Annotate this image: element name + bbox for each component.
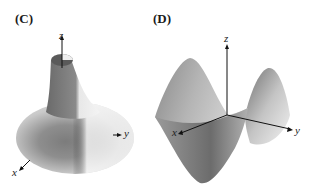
z-axis-label-c: z <box>59 29 63 41</box>
panel-c: (C) z y x <box>0 0 150 195</box>
panel-label-c: (C) <box>15 11 33 27</box>
x-axis-label-d: x <box>172 126 177 138</box>
panel-label-d: (D) <box>153 11 171 27</box>
saddle-surface-plot <box>150 0 309 195</box>
saddle-right-lobe <box>245 68 290 145</box>
y-axis-label-c: y <box>124 127 129 139</box>
y-axis-label-d: y <box>295 124 300 136</box>
x-axis-label-c: x <box>12 166 17 178</box>
funnel-neck <box>46 60 100 119</box>
z-axis-label-d: z <box>224 32 228 44</box>
y-arrow-icon <box>287 127 293 132</box>
panel-d: (D) z x y <box>150 0 309 195</box>
z-arrow-icon <box>225 44 229 49</box>
funnel-surface-plot <box>0 0 150 195</box>
